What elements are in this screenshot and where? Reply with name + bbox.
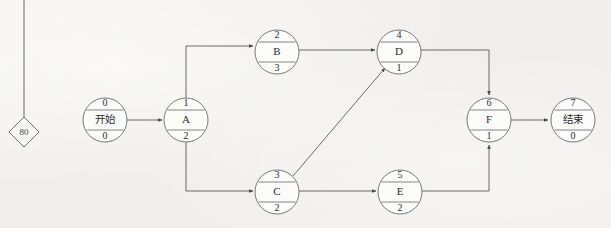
node-e[interactable]: 5 E 2 [378,169,422,214]
edge-a-c [186,142,253,191]
node-start[interactable]: 0 开始 0 [83,97,127,142]
node-f-bottom-value: 1 [487,130,492,141]
node-end-top-value: 7 [571,97,576,108]
node-end-label: 结束 [563,113,584,125]
node-start-top-value: 0 [103,97,108,108]
node-start-bottom-value: 0 [103,130,108,141]
edge-d-f [421,50,489,95]
node-start-label: 开始 [95,113,116,125]
node-e-top-value: 5 [398,169,403,180]
node-c-top-value: 3 [275,169,280,180]
node-b[interactable]: 2 B 3 [255,29,299,74]
marker-label: 80 [20,127,30,137]
node-b-bottom-value: 3 [275,62,280,73]
node-c[interactable]: 3 C 2 [255,169,299,214]
node-d-top-value: 4 [397,29,402,40]
node-c-bottom-value: 2 [275,202,280,213]
node-f-label: F [486,113,492,125]
node-d-bottom-value: 1 [397,62,402,73]
node-end[interactable]: 7 结束 0 [551,97,595,142]
edge-c-d [293,68,385,176]
node-d[interactable]: 4 D 1 [377,29,421,74]
node-a-top-value: 1 [184,97,189,108]
edge-e-f [422,145,489,191]
node-a-label: A [182,113,190,125]
node-f[interactable]: 6 F 1 [467,97,511,142]
node-b-label: B [273,45,280,57]
node-b-top-value: 2 [275,29,280,40]
network-diagram: 0 开始 0 1 A 2 2 B 3 [0,0,611,228]
node-f-top-value: 6 [487,97,492,108]
node-c-label: C [273,185,280,197]
node-end-bottom-value: 0 [571,130,576,141]
edge-a-b [186,46,253,98]
node-a-bottom-value: 2 [184,130,189,141]
node-a[interactable]: 1 A 2 [164,97,208,142]
node-e-bottom-value: 2 [398,202,403,213]
marker-80[interactable]: 80 [9,0,39,147]
node-e-label: E [397,185,404,197]
diagram-canvas: 0 开始 0 1 A 2 2 B 3 [0,0,611,228]
node-d-label: D [395,45,403,57]
